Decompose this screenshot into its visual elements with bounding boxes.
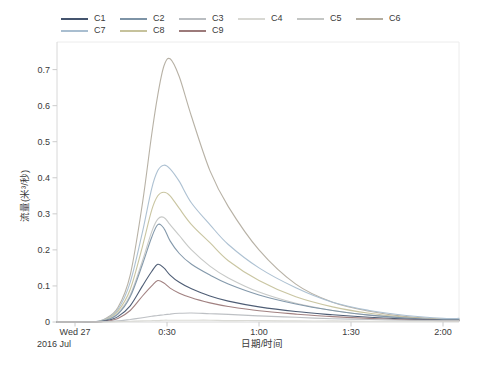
axis-ticks: 00.10.20.30.40.50.60.7Wed 272016 Jul0:30… <box>37 65 452 349</box>
y-tick-label: 0.3 <box>37 209 50 219</box>
hydrograph-figure: C1C2C3C4C5C6C7C8C9 00.10.20.30.40.50.60.… <box>0 0 485 372</box>
y-tick-label: 0.7 <box>37 65 50 75</box>
x-tick-label: Wed 27 <box>60 327 91 337</box>
chart-canvas: 00.10.20.30.40.50.60.7Wed 272016 Jul0:30… <box>0 0 485 372</box>
y-tick-label: 0.6 <box>37 101 50 111</box>
y-axis-title: 流量(米³/秒) <box>19 170 30 222</box>
series-line-C2 <box>57 224 459 322</box>
y-tick-label: 0 <box>45 317 50 327</box>
series-line-C8 <box>57 192 459 322</box>
x-tick-label: 1:30 <box>342 327 360 337</box>
series-line-C6 <box>57 58 459 322</box>
x-tick-sublabel: 2016 Jul <box>37 339 71 349</box>
x-tick-label: 0:30 <box>158 327 176 337</box>
y-tick-label: 0.4 <box>37 173 50 183</box>
y-tick-label: 0.5 <box>37 137 50 147</box>
series-lines <box>57 58 459 322</box>
y-tick-label: 0.2 <box>37 245 50 255</box>
x-axis-title: 日期/时间 <box>241 338 284 349</box>
y-tick-label: 0.1 <box>37 281 50 291</box>
series-line-C7 <box>57 165 459 322</box>
x-tick-label: 1:00 <box>250 327 268 337</box>
x-tick-label: 2:00 <box>434 327 452 337</box>
